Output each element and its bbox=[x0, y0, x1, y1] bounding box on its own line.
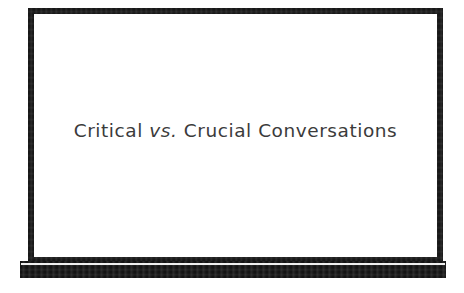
base-highlight-strip bbox=[21, 263, 445, 265]
slide-title-part-after: Crucial Conversations bbox=[177, 120, 397, 141]
slide-title-part-before: Critical bbox=[74, 120, 150, 141]
whiteboard-base-tray bbox=[20, 261, 446, 278]
whiteboard-frame: Critical vs. Crucial Conversations bbox=[28, 8, 443, 262]
slide-canvas: Critical vs. Crucial Conversations bbox=[0, 0, 464, 293]
whiteboard-surface: Critical vs. Crucial Conversations bbox=[34, 14, 437, 257]
slide-title-emphasis: vs. bbox=[149, 120, 177, 141]
slide-title: Critical vs. Crucial Conversations bbox=[34, 120, 437, 142]
